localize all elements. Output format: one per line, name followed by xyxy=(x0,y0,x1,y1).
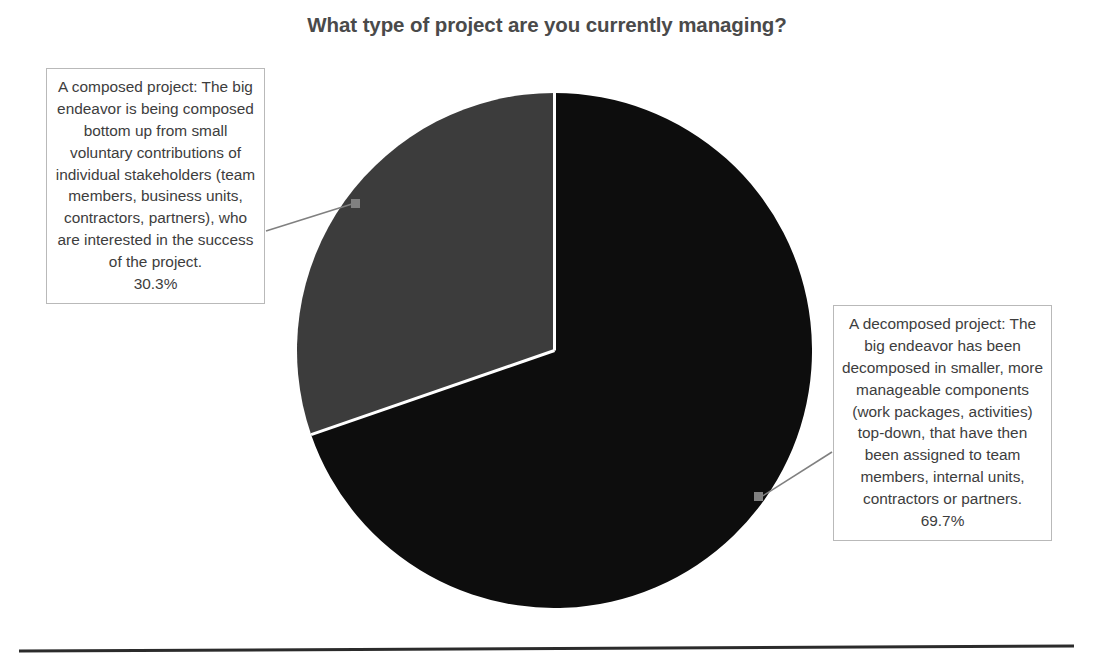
callout-left-percent: 30.3% xyxy=(53,273,258,295)
pie-chart xyxy=(297,93,812,608)
chart-canvas: What type of project are you currently m… xyxy=(0,0,1094,660)
callout-right-text: A decomposed project: The big endeavor h… xyxy=(842,315,1043,507)
pie-svg xyxy=(297,93,812,608)
bottom-rule xyxy=(0,630,1094,660)
bottom-rule-line xyxy=(19,646,1074,651)
callout-composed-project[interactable]: A composed project: The big endeavor is … xyxy=(46,68,265,304)
page-title: What type of project are you currently m… xyxy=(0,13,1094,37)
callout-left-text: A composed project: The big endeavor is … xyxy=(56,78,255,270)
callout-right-percent: 69.7% xyxy=(840,510,1045,532)
callout-decomposed-project[interactable]: A decomposed project: The big endeavor h… xyxy=(833,305,1052,541)
